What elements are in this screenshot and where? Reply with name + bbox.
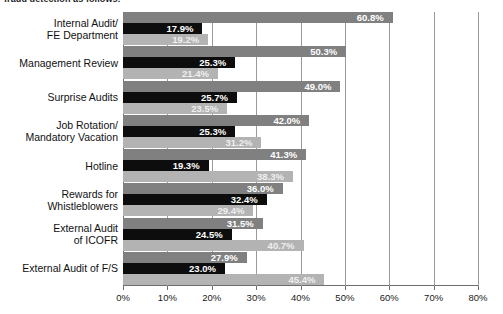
category-label-line: Surprise Audits [4, 91, 118, 103]
category-label-line: External Audit [4, 222, 118, 234]
x-tick-label: 40% [281, 292, 321, 303]
x-tick-mark [389, 286, 390, 290]
bar-value-label: 50.3% [310, 46, 337, 57]
bar-value-label: 38.3% [257, 171, 284, 182]
x-tick-label: 10% [147, 292, 187, 303]
x-tick-label: 80% [458, 292, 498, 303]
category-label-line: Job Rotation/ [4, 119, 118, 131]
bar-value-label: 24.5% [196, 229, 223, 240]
x-tick-mark [434, 286, 435, 290]
x-tick-label: 30% [236, 292, 276, 303]
plot-area: 60.8%17.9%19.2%50.3%25.3%21.4%49.0%25.7%… [123, 12, 478, 286]
bar-value-label: 41.3% [270, 149, 297, 160]
bar-value-label: 19.2% [172, 34, 199, 45]
bar-chart: fraud detection as follows: 60.8%17.9%19… [0, 0, 503, 314]
bar-value-label: 19.3% [173, 160, 200, 171]
category-label-line: of ICOFR [4, 234, 118, 246]
bar-value-label: 23.0% [189, 263, 216, 274]
category-label-line: FE Department [4, 29, 118, 41]
category-label-line: Whistleblowers [4, 200, 118, 212]
x-tick-mark [301, 286, 302, 290]
bar-value-label: 23.5% [191, 103, 218, 114]
bar-value-label: 49.0% [304, 81, 331, 92]
bar-value-label: 60.8% [357, 12, 384, 23]
bar [123, 12, 393, 23]
clipped-caption-text: fraud detection as follows: [4, 0, 334, 6]
category-label-line: Hotline [4, 160, 118, 172]
bar-value-label: 32.4% [231, 194, 258, 205]
category-label-line: Internal Audit/ [4, 17, 118, 29]
bar-value-label: 45.4% [288, 274, 315, 285]
bar-value-label: 42.0% [273, 115, 300, 126]
bar-value-label: 36.0% [247, 183, 274, 194]
category-label-line: Management Review [4, 57, 118, 69]
x-tick-mark [345, 286, 346, 290]
category-label-line: Rewards for [4, 188, 118, 200]
x-tick-mark [478, 286, 479, 290]
bar-value-label: 40.7% [268, 240, 295, 251]
bar-value-label: 17.9% [166, 23, 193, 34]
bar-value-label: 25.7% [201, 92, 228, 103]
category-label-line: External Audit of F/S [4, 262, 118, 274]
category-label-line: Mandatory Vacation [4, 131, 118, 143]
x-tick-mark [212, 286, 213, 290]
x-tick-label: 50% [325, 292, 365, 303]
x-tick-label: 70% [414, 292, 454, 303]
bar-value-label: 29.4% [217, 205, 244, 216]
x-tick-mark [167, 286, 168, 290]
bar-value-label: 31.5% [227, 218, 254, 229]
x-tick-mark [256, 286, 257, 290]
bar-value-label: 25.3% [199, 57, 226, 68]
x-tick-label: 60% [369, 292, 409, 303]
bar-value-label: 31.2% [225, 137, 252, 148]
bar-value-label: 21.4% [182, 68, 209, 79]
x-tick-label: 0% [103, 292, 143, 303]
x-tick-mark [123, 286, 124, 290]
gridline [478, 12, 479, 286]
bar-value-label: 25.3% [199, 126, 226, 137]
x-tick-label: 20% [192, 292, 232, 303]
gridline [434, 12, 435, 286]
gridline [389, 12, 390, 286]
bar-value-label: 27.9% [211, 252, 238, 263]
